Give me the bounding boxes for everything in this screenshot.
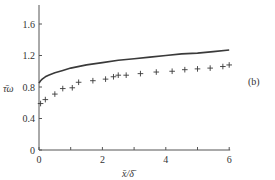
y-tick-label: 0.4 <box>23 113 36 124</box>
plus-marker <box>153 69 159 75</box>
theory-curve <box>39 50 229 83</box>
y-axis-label: τ̄ω <box>3 83 14 94</box>
plus-marker <box>76 79 82 85</box>
x-tick-label: 4 <box>163 154 168 165</box>
plus-marker <box>43 97 49 103</box>
x-tick-label: 0 <box>37 154 42 165</box>
plus-marker <box>207 65 213 71</box>
y-tick-label: 1.2 <box>23 50 36 61</box>
y-tick-label: 0 <box>30 145 35 156</box>
plus-marker <box>220 64 226 70</box>
plus-marker <box>90 78 96 84</box>
plus-marker <box>103 76 109 82</box>
plus-marker <box>169 68 175 74</box>
theory-line <box>39 50 229 83</box>
plus-marker <box>182 67 188 73</box>
plus-marker <box>138 71 144 77</box>
plus-marker <box>60 86 66 92</box>
panel-label: (b) <box>248 76 260 88</box>
plus-marker <box>123 72 129 78</box>
chart-canvas: 00.40.81.21.60246 τ̄ωx̄/δ̄(b) <box>0 0 275 180</box>
plus-marker <box>195 66 201 72</box>
x-axis-label: x̄/δ̄ <box>121 168 137 179</box>
chart-labels: τ̄ωx̄/δ̄(b) <box>3 76 260 179</box>
y-tick-label: 1.6 <box>23 19 36 30</box>
x-tick-label: 2 <box>100 154 105 165</box>
plus-marker <box>226 62 232 68</box>
y-tick-label: 0.8 <box>23 82 36 93</box>
plus-marker <box>69 85 75 91</box>
axes: 00.40.81.21.60246 <box>23 5 232 165</box>
plus-marker <box>52 91 58 97</box>
x-tick-label: 6 <box>227 154 232 165</box>
